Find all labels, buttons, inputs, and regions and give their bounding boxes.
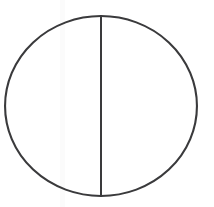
bisected-circle-drawing — [0, 0, 214, 207]
figure-canvas — [0, 0, 214, 207]
